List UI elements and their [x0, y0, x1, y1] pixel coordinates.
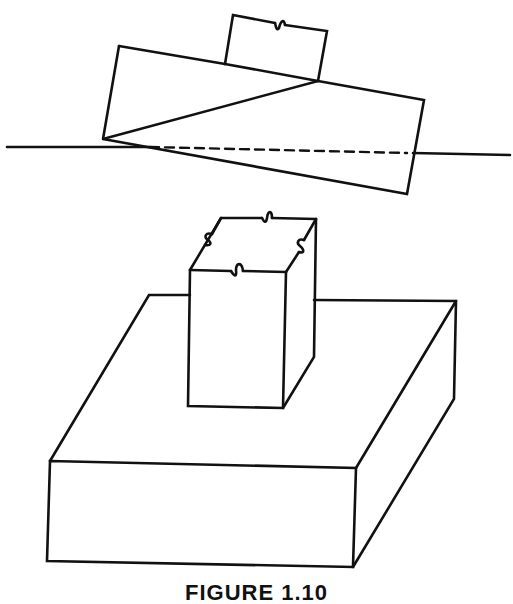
tilted-small-block	[225, 15, 327, 81]
spread-footing-base	[47, 295, 456, 567]
horizon-line	[7, 147, 510, 155]
tilted-footing	[103, 46, 424, 194]
figure-caption: FIGURE 1.10	[0, 580, 513, 604]
pier-column	[188, 212, 316, 408]
